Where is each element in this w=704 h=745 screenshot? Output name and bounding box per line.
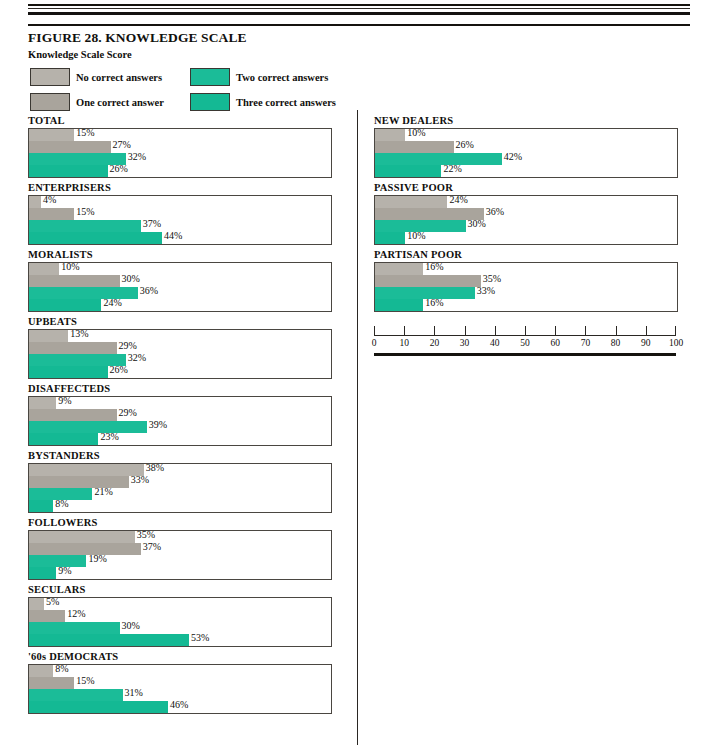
bar-row: 21%	[29, 488, 331, 500]
bar	[29, 397, 56, 409]
bar	[375, 153, 502, 165]
bar	[29, 598, 44, 610]
chart-group: TOTAL15%27%32%26%	[28, 114, 330, 178]
group-title: UPBEATS	[28, 315, 330, 328]
legend-swatch-two-correct	[190, 68, 230, 86]
bar-value-label: 27%	[111, 139, 131, 151]
plot-area: 15%27%32%26%	[28, 128, 332, 178]
bar-row: 24%	[375, 196, 677, 208]
legend-row: No correct answers Two correct answers	[30, 66, 360, 88]
bar-value-label: 23%	[98, 431, 118, 443]
axis-tick	[434, 326, 435, 335]
bar-value-label: 16%	[423, 261, 443, 273]
axis-tick	[495, 326, 496, 335]
bar	[29, 677, 74, 689]
bar-value-label: 36%	[138, 285, 158, 297]
legend-label-no-correct: No correct answers	[76, 72, 162, 83]
axis-tick-label: 20	[430, 337, 440, 349]
bar-row: 44%	[29, 232, 331, 244]
bar-row: 32%	[29, 153, 331, 165]
bar-row: 36%	[375, 208, 677, 220]
axis-tick-label: 100	[669, 337, 683, 349]
axis-tick-label: 60	[550, 337, 560, 349]
bar-value-label: 26%	[108, 163, 128, 175]
bar-value-label: 30%	[120, 620, 140, 632]
bar-row: 37%	[29, 543, 331, 555]
bar-row: 27%	[29, 141, 331, 153]
bar	[29, 409, 117, 421]
bar	[29, 129, 74, 141]
bar-value-label: 22%	[441, 163, 461, 175]
axis-tick-labels: 0102030405060708090100	[374, 337, 676, 351]
bar	[29, 208, 74, 220]
bar-value-label: 15%	[74, 206, 94, 218]
axis-tick	[616, 326, 617, 335]
chart-group: PARTISAN POOR16%35%33%16%	[374, 248, 676, 312]
bar-row: 16%	[375, 263, 677, 275]
bar-value-label: 9%	[56, 565, 71, 577]
bar-value-label: 9%	[56, 395, 71, 407]
legend-label-three-correct: Three correct answers	[236, 97, 336, 108]
bar	[375, 196, 447, 208]
group-title: MORALISTS	[28, 248, 330, 261]
bar-row: 12%	[29, 610, 331, 622]
bar-row: 10%	[375, 129, 677, 141]
axis-tick-label: 40	[490, 337, 500, 349]
axis-tick	[465, 326, 466, 335]
chart-axis: 0102030405060708090100	[374, 326, 676, 356]
group-title: TOTAL	[28, 114, 330, 127]
chart-group: SECULARS5%12%30%53%	[28, 583, 330, 647]
bar-row: 24%	[29, 299, 331, 311]
bar-value-label: 24%	[101, 297, 121, 309]
bar-value-label: 30%	[120, 273, 140, 285]
group-title: PARTISAN POOR	[374, 248, 676, 261]
chart-group: PASSIVE POOR24%36%30%10%	[374, 181, 676, 245]
legend-item-three-correct: Three correct answers	[190, 93, 350, 111]
plot-area: 4%15%37%44%	[28, 195, 332, 245]
plot-area: 8%15%31%46%	[28, 664, 332, 714]
axis-tick	[525, 326, 526, 335]
bar-row: 8%	[29, 500, 331, 512]
axis-tick	[555, 326, 556, 335]
axis-tick-label: 30	[460, 337, 470, 349]
group-title: FOLLOWERS	[28, 516, 330, 529]
bar-value-label: 8%	[53, 498, 68, 510]
bar-value-label: 29%	[117, 340, 137, 352]
chart-group: DISAFFECTEDS9%29%39%23%	[28, 382, 330, 446]
bar	[29, 220, 141, 232]
right-panel-column: NEW DEALERS10%26%42%22%PASSIVE POOR24%36…	[374, 114, 676, 315]
axis-tick-label: 70	[581, 337, 591, 349]
chart-group: ENTERPRISERS4%15%37%44%	[28, 181, 330, 245]
axis-tick	[646, 326, 647, 335]
axis-tick-label: 90	[641, 337, 651, 349]
bar-row: 16%	[375, 299, 677, 311]
bar-value-label: 37%	[141, 541, 161, 553]
bar-value-label: 15%	[74, 675, 94, 687]
group-title: '60s DEMOCRATS	[28, 650, 330, 663]
bar-row: 35%	[29, 531, 331, 543]
axis-tick-label: 0	[372, 337, 377, 349]
bar	[375, 263, 423, 275]
bar-value-label: 26%	[108, 364, 128, 376]
bar-value-label: 39%	[147, 419, 167, 431]
bar-row: 46%	[29, 701, 331, 713]
bar-row: 29%	[29, 409, 331, 421]
bar-row: 15%	[29, 129, 331, 141]
bar-value-label: 35%	[135, 529, 155, 541]
bar-row: 32%	[29, 354, 331, 366]
plot-area: 5%12%30%53%	[28, 597, 332, 647]
bar	[29, 299, 101, 311]
bar	[375, 129, 405, 141]
bar	[29, 464, 144, 476]
plot-area: 10%30%36%24%	[28, 262, 332, 312]
plot-area: 10%26%42%22%	[374, 128, 678, 178]
legend-label-two-correct: Two correct answers	[236, 72, 328, 83]
bar-row: 42%	[375, 153, 677, 165]
bar-value-label: 10%	[405, 230, 425, 242]
plot-area: 9%29%39%23%	[28, 396, 332, 446]
bar-row: 15%	[29, 677, 331, 689]
bar-row: 33%	[29, 476, 331, 488]
legend-label-one-correct: One correct answer	[76, 97, 164, 108]
figure-title: FIGURE 28. KNOWLEDGE SCALE	[28, 30, 247, 46]
chart-group: NEW DEALERS10%26%42%22%	[374, 114, 676, 178]
